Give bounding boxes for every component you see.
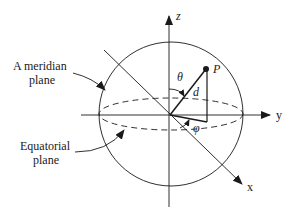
meridian-leader-arrow [73,73,105,90]
equatorial-label-line2: plane [33,153,59,167]
phi-arc [180,120,189,128]
meridian-label-line1: A meridian [13,59,67,73]
theta-arc [169,89,184,96]
equatorial-leader-arrow [75,130,124,152]
z-axis-label: z [175,9,181,23]
x-axis-label: x [247,180,253,194]
phi-label: φ [193,121,200,135]
theta-label: θ [177,70,183,84]
spherical-coordinates-diagram: A meridian plane Equatorial plane z y x … [0,0,293,215]
point-p-marker [203,66,209,72]
meridian-label-line2: plane [29,73,55,87]
point-p-label: P [212,62,221,76]
distance-label: d [193,85,200,99]
radius-line-d [170,69,206,115]
y-axis-label: y [276,108,282,122]
x-axis [104,50,242,184]
equatorial-label-line1: Equatorial [20,139,71,153]
